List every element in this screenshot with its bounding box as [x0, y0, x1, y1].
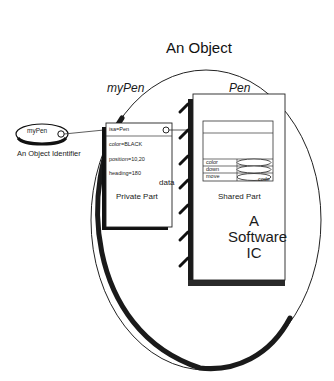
chip-text-line: Software	[228, 229, 280, 245]
software-ic-label: A Software IC	[228, 213, 280, 261]
isa-port-icon	[163, 127, 169, 133]
shared-part-title: Pen	[229, 81, 250, 95]
diagram-canvas	[0, 0, 334, 381]
method-down: down	[206, 166, 219, 172]
method-move: move	[206, 173, 219, 179]
chip-text-line: A	[228, 213, 280, 229]
private-row-heading: heading=180	[109, 170, 141, 176]
method-down-code-icon	[237, 166, 271, 173]
data-label: data	[159, 178, 175, 187]
code-label: code	[258, 176, 270, 182]
identifier-label: myPen	[27, 127, 47, 134]
method-color: color	[206, 159, 218, 165]
identifier-port-icon	[58, 131, 64, 137]
private-row-color: color=BLACK	[109, 141, 142, 147]
private-row-position: position=10,20	[109, 156, 145, 162]
chip-text-line: IC	[228, 245, 280, 261]
shared-part-caption: Shared Part	[218, 192, 261, 201]
identifier-caption: An Object Identifier	[17, 149, 81, 158]
private-part-title: myPen	[107, 81, 144, 95]
private-part-caption: Private Part	[116, 192, 158, 201]
object-title: An Object	[166, 39, 232, 56]
private-row-isa: isa=Pen	[109, 126, 129, 132]
method-color-code-icon	[237, 159, 271, 166]
